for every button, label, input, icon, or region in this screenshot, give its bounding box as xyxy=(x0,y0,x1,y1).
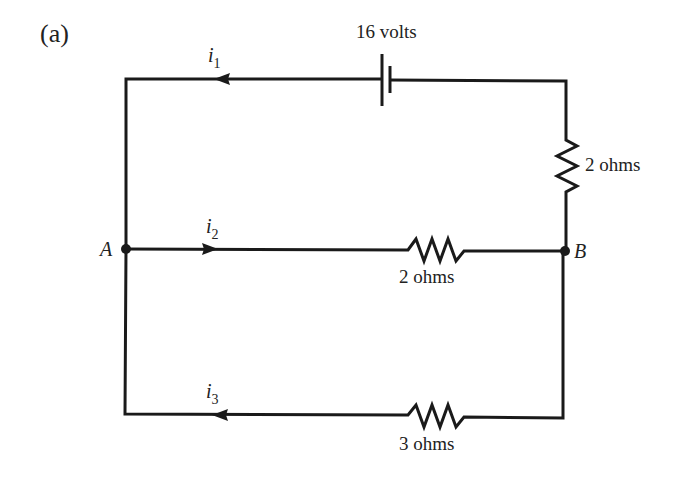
current-arrow-i1-icon xyxy=(214,73,230,85)
current-arrow-i2-icon xyxy=(202,243,218,255)
current-arrow-i3-icon xyxy=(212,409,228,421)
node-a-label: A xyxy=(98,238,113,260)
figure-label: (a) xyxy=(40,19,69,48)
bottom-branch-wire xyxy=(125,249,563,427)
node-b-label: B xyxy=(574,240,586,262)
current-label-i3: i3 xyxy=(206,380,219,407)
top-right-wire xyxy=(390,80,566,135)
top-left-wire xyxy=(126,79,382,249)
right-resistor-icon xyxy=(557,135,577,249)
bottom-resistor-label: 3 ohms xyxy=(399,433,454,454)
current-label-i1: i1 xyxy=(208,44,221,71)
battery-icon xyxy=(382,54,390,106)
middle-branch-wire xyxy=(126,239,566,261)
circuit-diagram: (a) 16 volts i1 2 ohms i2 2 ohms A B i3 … xyxy=(0,0,684,477)
right-resistor-label: 2 ohms xyxy=(585,154,640,175)
battery-label: 16 volts xyxy=(356,21,417,42)
current-label-i2: i2 xyxy=(206,215,219,242)
middle-resistor-label: 2 ohms xyxy=(399,266,454,287)
